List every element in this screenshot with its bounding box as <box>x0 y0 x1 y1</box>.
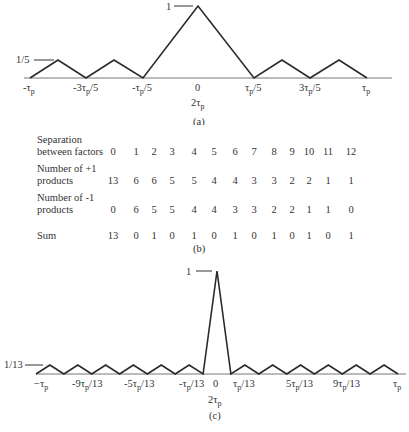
table-cell: 5 <box>144 204 164 215</box>
panel-c-tick: 0 <box>213 378 218 389</box>
table-cell: 6 <box>225 146 245 157</box>
row-header-line: Separation <box>37 134 147 146</box>
table-cell: 13 <box>103 230 123 241</box>
panel-c-tick: −τp <box>34 378 48 392</box>
table-cell: 6 <box>144 175 164 186</box>
table-cell: 7 <box>244 146 264 157</box>
row-header-line: Number of -1 <box>37 192 147 204</box>
table-cell: 1 <box>341 175 361 186</box>
table-cell: 3 <box>244 175 264 186</box>
table-cell: 1 <box>144 230 164 241</box>
table-cell: 1 <box>318 175 338 186</box>
table-cell: 0 <box>244 230 264 241</box>
table-cell: 3 <box>162 146 182 157</box>
table-cell: 3 <box>264 175 284 186</box>
table-cell: 0 <box>162 230 182 241</box>
panel-c-peak-label: 1 <box>186 266 191 277</box>
table-cell: 5 <box>162 175 182 186</box>
table-cell: 10 <box>299 146 319 157</box>
panel-c-tick: 5τp/13 <box>286 378 313 392</box>
table-cell: 4 <box>225 175 245 186</box>
row-header-line: Number of +1 <box>37 163 147 175</box>
table-cell: 1 <box>225 230 245 241</box>
panel-c-center-sublabel: 2τp <box>208 394 221 408</box>
table-cell: 4 <box>184 146 204 157</box>
table-cell: 3 <box>244 204 264 215</box>
table-cell: 13 <box>103 175 123 186</box>
panel-b-caption: (b) <box>193 243 205 254</box>
table-cell: 3 <box>225 204 245 215</box>
table-cell: 5 <box>204 146 224 157</box>
table-cell: 12 <box>341 146 361 157</box>
panel-c-tick: 9τp/13 <box>333 378 360 392</box>
table-cell: 0 <box>103 204 123 215</box>
panel-c-caption: (c) <box>209 410 221 422</box>
panel-c-autocorrelation-curve <box>36 271 398 374</box>
table-cell: 1 <box>341 230 361 241</box>
table-cell: 2 <box>299 175 319 186</box>
table-cell: 1 <box>264 230 284 241</box>
panel-c-sidelobe-label: 1/13 <box>4 359 23 370</box>
table-cell: 1 <box>126 146 146 157</box>
table-cell: 5 <box>184 175 204 186</box>
panel-b-table: Separation between factors Number of +1 … <box>0 0 409 260</box>
table-cell: 0 <box>318 230 338 241</box>
table-cell: 1 <box>318 204 338 215</box>
panel-c-tick: -τp/13 <box>179 378 204 392</box>
table-cell: 2 <box>264 204 284 215</box>
table-cell: 0 <box>204 230 224 241</box>
table-cell: 4 <box>204 175 224 186</box>
table-cell: 0 <box>341 204 361 215</box>
table-cell: 6 <box>126 204 146 215</box>
table-cell: 0 <box>103 146 123 157</box>
table-cell: 6 <box>126 175 146 186</box>
table-cell: 1 <box>184 230 204 241</box>
table-cell: 4 <box>184 204 204 215</box>
table-cell: 5 <box>162 204 182 215</box>
panel-c-tick: -9τp/13 <box>72 378 102 392</box>
table-cell: 11 <box>318 146 338 157</box>
table-cell: 8 <box>264 146 284 157</box>
panel-c-tick: -5τp/13 <box>124 378 154 392</box>
table-cell: 2 <box>144 146 164 157</box>
table-cell: 1 <box>299 230 319 241</box>
table-cell: 0 <box>126 230 146 241</box>
table-cell: 4 <box>204 204 224 215</box>
panel-c-tick: τp/13 <box>233 378 255 392</box>
table-cell: 1 <box>299 204 319 215</box>
panel-c-tick: τp <box>393 378 401 392</box>
